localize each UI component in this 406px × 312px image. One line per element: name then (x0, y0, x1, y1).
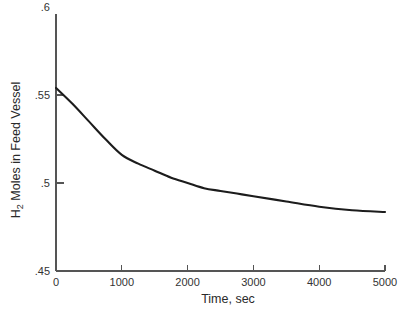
x-tick-label: 5000 (373, 276, 397, 288)
chart-figure: 010002000300040005000 .45.5.55.6 Time, s… (0, 0, 406, 312)
y-tick-label: .45 (35, 265, 50, 277)
y-tick-label: .5 (41, 177, 50, 189)
x-axis-title: Time, sec (201, 292, 255, 306)
chart-data-series (56, 88, 385, 212)
x-tick-label: 0 (53, 276, 59, 288)
chart-x-tick-labels: 010002000300040005000 (53, 276, 397, 288)
x-tick-label: 4000 (307, 276, 331, 288)
y-axis-title-prefix: H (9, 209, 23, 218)
chart-axes (56, 14, 385, 271)
y-axis-title-suffix: Moles in Feed Vessel (9, 82, 23, 204)
y-tick-label: .55 (35, 89, 50, 101)
y-tick-label: .6 (41, 1, 50, 13)
chart-plot-area: 010002000300040005000 .45.5.55.6 Time, s… (0, 0, 406, 312)
x-tick-label: 3000 (241, 276, 265, 288)
data-curve-line (56, 88, 385, 212)
x-tick-label: 2000 (175, 276, 199, 288)
chart-y-tick-labels: .45.5.55.6 (35, 1, 50, 277)
chart-tick-marks (56, 95, 385, 271)
x-tick-label: 1000 (110, 276, 134, 288)
y-axis-title: H2 Moles in Feed Vessel (9, 82, 25, 218)
